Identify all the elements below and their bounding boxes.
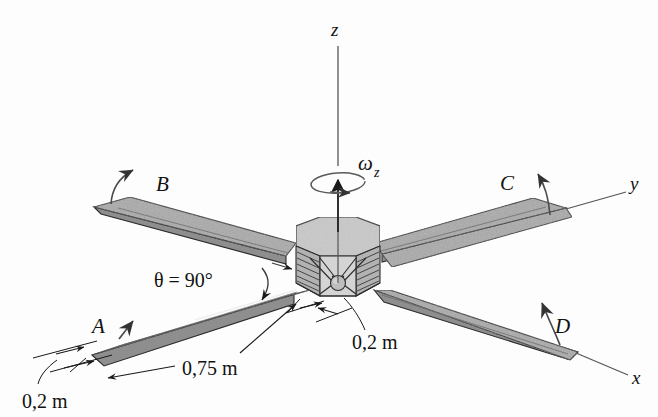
dimension-panel-width: 0,2 m [22,341,112,412]
panel-a-seam [116,292,297,347]
axis-y-line [566,192,626,209]
axis-x-label: x [631,367,641,388]
dim-075-line-left [108,366,175,378]
figure-root: z ω z y x B C A D θ = 90° [0,0,658,417]
panel-label-c: C [500,171,515,195]
theta-leader-arrow [262,268,268,300]
panel-d-seam [382,295,568,354]
rotation-indicator: ω z [310,151,380,195]
axis-y-label: y [628,173,639,194]
omega-arrowhead [330,192,350,193]
solar-panel-a[interactable] [92,290,310,366]
axis-y: y [566,173,639,209]
omega-subscript: z [373,165,380,180]
panel-a-rotation-arrow [119,321,133,339]
dimension-hub-offset: 0,2 m [286,298,398,353]
dim-hub-label: 0,2 m [352,331,398,353]
theta-annotation: θ = 90° [154,268,268,300]
omega-symbol: ω [358,151,373,175]
theta-label: θ = 90° [154,269,213,291]
solar-panel-b[interactable] [94,197,296,264]
panel-label-a: A [90,314,105,338]
panel-b-seam [118,208,288,253]
panel-label-b: B [156,172,169,196]
panel-a-face [92,290,310,355]
dim-02-label: 0,2 m [22,390,68,412]
axis-x-line [576,353,628,375]
panel-label-d: D [554,314,570,338]
body-panel-pointer [272,263,292,269]
satellite-diagram: z ω z y x B C A D θ = 90° [0,0,658,417]
dim-hub-leader [344,298,365,330]
dim-02-leader [38,360,57,384]
axis-z-label: z [330,19,339,40]
solar-panel-d[interactable] [374,290,578,360]
dim-hub-ext-right [316,308,352,322]
solar-panel-c[interactable] [375,198,572,267]
panel-a-arrow-path [119,321,133,339]
dim-hub-arrow-left [300,303,322,308]
dim-02-ext-upper [33,341,97,358]
dim-075-label: 0,75 m [182,357,238,379]
dim-hub-arrow-right [318,308,338,314]
panel-a-edge [92,294,294,366]
body-panel-pointer-arrow [272,263,292,269]
axis-x: x [576,353,641,388]
dim-02-arrow-lower [64,361,94,368]
